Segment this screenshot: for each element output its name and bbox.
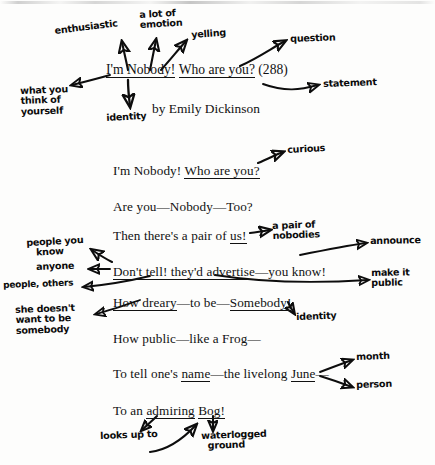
annotation-identity-top: identity bbox=[106, 111, 147, 123]
annotation-a-pair-of-nobodies: a pair of nobodies bbox=[272, 219, 320, 241]
scan-edge-artifact bbox=[0, 1, 435, 4]
arrow-to-what-you-think bbox=[72, 75, 110, 85]
poem-seg-underlined: Somebody! bbox=[230, 295, 292, 311]
annotation-yelling: yelling bbox=[191, 28, 226, 41]
poem-seg-underlined: Who are you? bbox=[184, 163, 259, 179]
worksheet-page: I'm Nobody! Who are you? (288) by Emily … bbox=[0, 0, 435, 465]
poem-line-2: Are you—Nobody—Too? bbox=[113, 199, 253, 215]
annotation-curious: curious bbox=[287, 143, 325, 155]
annotation-person: person bbox=[356, 379, 392, 391]
poem-seg: Are you—Nobody—Too? bbox=[113, 199, 253, 214]
poem-seg: — bbox=[315, 366, 328, 381]
poem-seg: How public—like a Frog— bbox=[113, 331, 261, 346]
poem-seg-underlined: Bog! bbox=[198, 403, 225, 419]
poem-seg: —to be— bbox=[177, 295, 230, 310]
arrow-to-curious bbox=[258, 152, 283, 163]
poem-seg: Then there's a pair of bbox=[113, 228, 230, 243]
annotation-make-it-public: make it public bbox=[371, 267, 410, 288]
title-number: (288) bbox=[258, 62, 287, 77]
poem-seg: To tell one's bbox=[113, 366, 181, 381]
poem-line-6: How public—like a Frog— bbox=[113, 331, 261, 347]
poem-line-7: To tell one's name—the livelong June— bbox=[113, 366, 329, 382]
annotation-people-others: people, others bbox=[3, 279, 74, 291]
annotation-announce: announce bbox=[370, 235, 421, 246]
annotation-what-you-think-of-yourself: what you think of yourself bbox=[20, 84, 69, 117]
annotation-enthusiastic: enthusiastic bbox=[54, 18, 118, 36]
annotation-looks-up-to: looks up to bbox=[100, 429, 158, 441]
byline: by Emily Dickinson bbox=[152, 101, 260, 117]
poem-seg: —you know! bbox=[255, 264, 326, 279]
annotation-month: month bbox=[356, 351, 390, 363]
poem-seg-underlined: Don't tell! they'd advertise bbox=[113, 264, 255, 280]
annotation-identity-mid: identity bbox=[296, 311, 337, 323]
title-part-1: I'm Nobody! bbox=[106, 62, 175, 78]
poem-line-8: To an admiring Bog! bbox=[113, 403, 225, 419]
annotation-people-you-know: people you know bbox=[26, 235, 84, 259]
page-title: I'm Nobody! Who are you? (288) bbox=[106, 62, 288, 78]
annotation-question: question bbox=[290, 32, 336, 44]
poem-line-4: Don't tell! they'd advertise—you know! bbox=[113, 264, 326, 280]
title-part-2: Who are you? bbox=[179, 62, 255, 78]
poem-seg-underlined: us! bbox=[230, 228, 246, 244]
annotation-waterlogged-ground: waterlogged ground bbox=[201, 429, 267, 452]
poem-seg-underlined: How dreary bbox=[113, 295, 177, 311]
annotation-anyone: anyone bbox=[36, 261, 74, 273]
poem-seg-underlined: June bbox=[291, 366, 316, 382]
poem-seg: To an bbox=[113, 403, 146, 418]
arrow-to-announce bbox=[300, 243, 366, 255]
annotation-a-lot-of-emotion: a lot of emotion bbox=[139, 8, 183, 31]
arrow-to-identity-top bbox=[128, 80, 130, 106]
annotation-statement: statement bbox=[323, 77, 377, 89]
poem-line-5: How dreary—to be—Somebody! bbox=[113, 295, 291, 311]
annotation-she-doesnt-want-to-be-somebody: she doesn't want to be somebody bbox=[15, 303, 76, 336]
arrow-to-people-you-know bbox=[92, 250, 112, 262]
poem-line-3: Then there's a pair of us! bbox=[113, 228, 247, 244]
arrow-to-statement bbox=[263, 84, 318, 89]
poem-seg-underlined: admiring bbox=[146, 403, 194, 419]
poem-seg: —the livelong bbox=[210, 366, 291, 381]
poem-line-1: I'm Nobody! Who are you? bbox=[113, 163, 260, 179]
poem-seg: I'm Nobody! bbox=[113, 163, 184, 178]
arrow-to-pair-of-nobodies bbox=[250, 230, 270, 233]
poem-seg-underlined: name bbox=[181, 366, 210, 382]
